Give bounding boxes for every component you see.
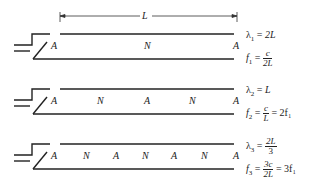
node-label: N	[201, 151, 208, 161]
frequency-2: f2 = cL = 2f₁	[246, 104, 291, 123]
node-label: A	[233, 151, 239, 161]
node-label: A	[144, 96, 150, 106]
node-label: A	[233, 96, 239, 106]
wavelength-3: λ3 = 2L3	[246, 137, 277, 156]
node-label: N	[142, 151, 149, 161]
wavelength-1: λ1 = 2L	[246, 30, 276, 44]
node-label: A	[51, 96, 57, 106]
node-label: N	[83, 151, 90, 161]
node-label: N	[144, 41, 151, 51]
node-label: A	[113, 151, 119, 161]
wavelength-2: λ2 = L	[246, 85, 271, 99]
tube-1	[14, 34, 234, 59]
node-label: N	[97, 96, 104, 106]
frequency-3: f3 = 3c2L = 3f₁	[246, 160, 296, 179]
node-label: A	[51, 41, 57, 51]
node-label: N	[189, 96, 196, 106]
node-label: A	[233, 41, 239, 51]
frequency-1: f1 = c2L	[246, 49, 272, 68]
node-label: A	[51, 151, 57, 161]
tube-2	[14, 89, 234, 114]
node-label: A	[171, 151, 177, 161]
dimension-line	[60, 12, 237, 22]
length-label: L	[142, 11, 148, 21]
